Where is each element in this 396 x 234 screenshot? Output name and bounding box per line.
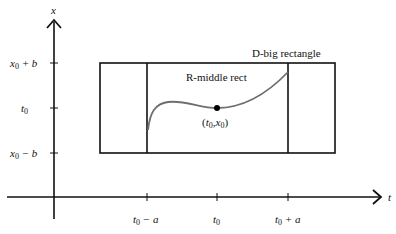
y-axis-label: x [50, 4, 56, 16]
diagram-canvas: x t x0 + b t0 x0 − b t0 − a t0 t0 + a D-… [0, 0, 396, 234]
big-rect-label: D-big rectangle [252, 47, 321, 59]
middle-rect-label: R-middle rect [186, 71, 247, 83]
y-tick-label-top: x0 + b [9, 57, 38, 71]
y-tick-label-bottom: x0 − b [9, 147, 38, 161]
initial-point [214, 105, 220, 111]
x-axis-label: t [388, 191, 392, 203]
initial-point-label: (t0,x0) [202, 116, 228, 130]
x-tick-label-left: t0 − a [133, 213, 159, 227]
x-tick-label-right: t0 + a [275, 213, 301, 227]
y-tick-label-mid: t0 [21, 102, 28, 116]
x-tick-label-center: t0 [213, 213, 220, 227]
